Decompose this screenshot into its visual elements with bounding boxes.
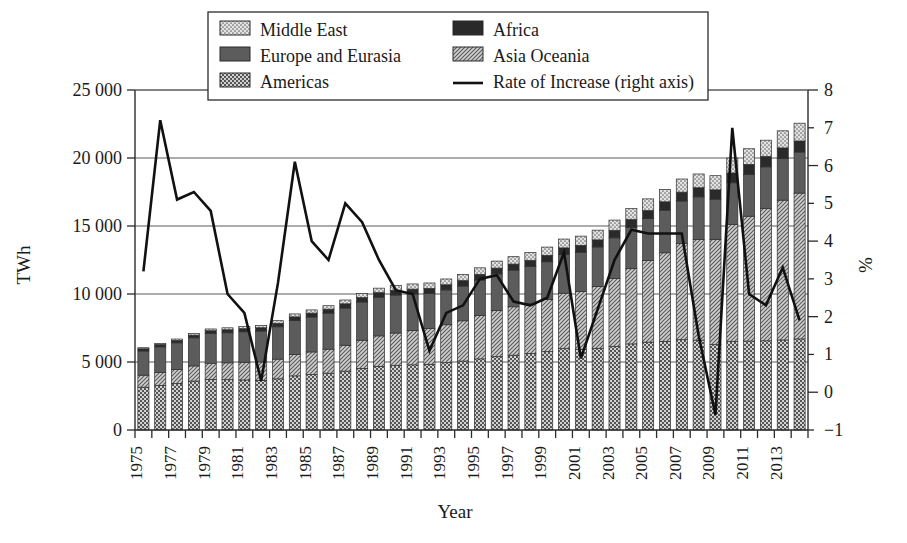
bar-segment-americas: [340, 371, 351, 430]
bar-segment-europe-and-eurasia: [239, 332, 250, 362]
bar-segment-americas: [272, 379, 283, 430]
bar-segment-europe-and-eurasia: [155, 347, 166, 373]
bar-1979: [205, 329, 216, 430]
bar-segment-africa: [575, 245, 586, 252]
bar-2007: [676, 179, 687, 430]
bar-segment-middle-east: [508, 257, 519, 264]
bar-segment-middle-east: [205, 329, 216, 331]
y2-tick-label: 7: [824, 118, 833, 138]
bar-segment-middle-east: [458, 274, 469, 280]
bar-segment-asia-oceania: [188, 366, 199, 381]
x-tick-label: 2011: [733, 446, 752, 479]
bar-segment-europe-and-eurasia: [542, 262, 553, 300]
bar-2006: [659, 189, 670, 430]
bar-segment-africa: [592, 240, 603, 247]
legend-label: Rate of Increase (right axis): [493, 72, 694, 93]
bar-1996: [491, 261, 502, 430]
bar-segment-americas: [676, 340, 687, 430]
bar-segment-middle-east: [609, 220, 620, 230]
bar-segment-americas: [643, 342, 654, 430]
bar-segment-europe-and-eurasia: [188, 338, 199, 366]
bar-segment-middle-east: [491, 261, 502, 268]
bar-segment-americas: [390, 366, 401, 430]
x-tick-label: 1993: [430, 446, 449, 480]
bar-segment-africa: [458, 281, 469, 286]
bar-1975: [138, 348, 149, 430]
legend-swatch-solid-black: [453, 21, 483, 35]
bar-segment-europe-and-eurasia: [357, 302, 368, 340]
bar-segment-africa: [289, 317, 300, 321]
bar-segment-africa: [710, 190, 721, 199]
x-tick-label: 1995: [464, 446, 483, 480]
bar-segment-asia-oceania: [323, 349, 334, 373]
bar-segment-americas: [373, 366, 384, 430]
y-tick-label: 5 000: [82, 352, 123, 372]
bar-segment-middle-east: [155, 343, 166, 344]
bar-1988: [357, 293, 368, 430]
bar-segment-americas: [626, 344, 637, 430]
bar-2000: [558, 239, 569, 430]
bar-segment-middle-east: [441, 279, 452, 285]
bar-segment-middle-east: [172, 339, 183, 340]
bar-2004: [626, 209, 637, 430]
bar-segment-asia-oceania: [222, 363, 233, 380]
bar-segment-middle-east: [525, 253, 536, 261]
bar-segment-europe-and-eurasia: [172, 343, 183, 370]
y2-tick-label: 2: [824, 307, 833, 327]
bar-segment-asia-oceania: [373, 336, 384, 366]
bar-1987: [340, 300, 351, 430]
bar-segment-middle-east: [542, 247, 553, 255]
bar-segment-middle-east: [659, 189, 670, 201]
bar-segment-europe-and-eurasia: [340, 308, 351, 345]
bar-segment-middle-east: [256, 325, 267, 327]
bar-segment-americas: [525, 354, 536, 430]
bar-segment-europe-and-eurasia: [693, 197, 704, 240]
y-tick-label: 15 000: [73, 216, 123, 236]
bar-segment-africa: [340, 304, 351, 308]
bar-segment-asia-oceania: [508, 307, 519, 355]
bar-segment-europe-and-eurasia: [659, 210, 670, 253]
x-tick-label: 1999: [531, 446, 550, 480]
bar-segment-middle-east: [357, 293, 368, 297]
bar-segment-europe-and-eurasia: [272, 327, 283, 359]
bar-segment-americas: [491, 357, 502, 430]
bar-segment-africa: [508, 264, 519, 270]
bar-segment-africa: [188, 335, 199, 338]
bar-segment-asia-oceania: [155, 372, 166, 385]
bar-segment-africa: [357, 298, 368, 302]
legend-swatch-solid-dark: [220, 47, 250, 61]
y2-tick-label: 8: [824, 80, 833, 100]
bar-segment-americas: [205, 379, 216, 430]
x-tick-label: 1987: [329, 446, 348, 481]
bar-segment-asia-oceania: [239, 362, 250, 380]
bar-1980: [222, 328, 233, 430]
bar-segment-africa: [172, 340, 183, 342]
bar-segment-africa: [491, 268, 502, 274]
y-tick-label: 0: [113, 420, 122, 440]
y-axis-right-title: %: [855, 257, 876, 273]
bar-segment-asia-oceania: [441, 325, 452, 363]
bar-segment-middle-east: [272, 321, 283, 324]
x-tick-label: 2009: [699, 446, 718, 480]
bar-segment-africa: [256, 328, 267, 331]
bar-segment-africa: [794, 141, 805, 152]
bar-segment-asia-oceania: [659, 253, 670, 342]
bar-segment-europe-and-eurasia: [710, 199, 721, 239]
bar-segment-middle-east: [643, 199, 654, 211]
y-tick-label: 10 000: [73, 284, 123, 304]
bar-segment-europe-and-eurasia: [525, 267, 536, 304]
bar-segment-europe-and-eurasia: [289, 321, 300, 355]
chart-container: 05 00010 00015 00020 00025 000 −10123456…: [0, 0, 907, 543]
x-tick-label: 1977: [161, 446, 180, 481]
bar-segment-africa: [306, 313, 317, 317]
x-tick-label: 1997: [498, 446, 517, 481]
bar-segment-americas: [188, 381, 199, 430]
bar-1977: [172, 339, 183, 430]
bar-segment-asia-oceania: [390, 333, 401, 366]
bar-segment-americas: [777, 340, 788, 430]
bar-segment-americas: [323, 373, 334, 430]
bar-segment-asia-oceania: [542, 300, 553, 352]
bar-segment-asia-oceania: [205, 363, 216, 379]
bar-segment-asia-oceania: [474, 316, 485, 359]
x-tick-label: 1975: [127, 446, 146, 480]
